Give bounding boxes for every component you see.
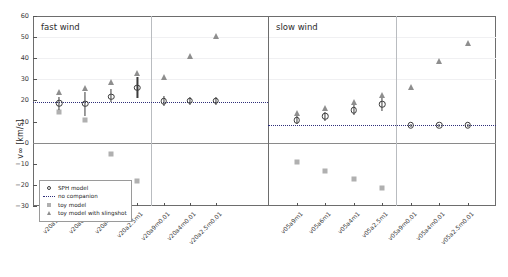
dotted-line-icon bbox=[43, 196, 55, 197]
toy-model-slingshot-marker bbox=[82, 85, 88, 91]
toy-model-marker bbox=[109, 151, 114, 156]
toy-model-slingshot-marker bbox=[108, 79, 114, 85]
y-tick-mark bbox=[33, 185, 37, 186]
toy-model-slingshot-marker bbox=[351, 99, 357, 105]
y-tick-label: 20 bbox=[21, 96, 29, 104]
y-tick-label: −20 bbox=[15, 181, 29, 189]
y-tick-mark bbox=[33, 58, 37, 59]
legend-label: no companion bbox=[58, 192, 98, 201]
sph-model-marker bbox=[108, 93, 115, 100]
toy-model-slingshot-marker bbox=[161, 74, 167, 80]
toy-model-slingshot-marker bbox=[436, 58, 442, 64]
sph-model-marker bbox=[213, 98, 220, 105]
y-tick-mark bbox=[33, 206, 37, 207]
y-tick-label: 60 bbox=[21, 12, 29, 20]
legend-item: SPH model bbox=[43, 184, 127, 193]
x-tick-mark bbox=[216, 203, 217, 207]
scan-band bbox=[33, 37, 496, 38]
x-tick-mark bbox=[190, 203, 191, 207]
legend-key-triangle bbox=[43, 211, 55, 215]
toy-model-marker bbox=[135, 179, 140, 184]
x-tick-mark bbox=[137, 203, 138, 207]
sph-model-marker bbox=[464, 122, 471, 129]
page-edge-artifact bbox=[2, 1, 4, 6]
toy-model-marker bbox=[351, 177, 356, 182]
y-tick-label: 0 bbox=[25, 139, 29, 147]
legend-item: toy model bbox=[43, 201, 127, 210]
sph-model-marker bbox=[293, 117, 300, 124]
panel-divider bbox=[268, 16, 269, 206]
toy-model-slingshot-marker bbox=[56, 89, 62, 95]
sph-model-marker bbox=[322, 113, 329, 120]
y-tick-label: −10 bbox=[15, 160, 29, 168]
sph-model-marker bbox=[82, 100, 89, 107]
legend-label: toy model bbox=[58, 201, 86, 210]
x-tick-mark bbox=[297, 203, 298, 207]
no-companion-line bbox=[268, 125, 496, 126]
legend-label: toy model with slingshot bbox=[58, 209, 127, 218]
toy-model-slingshot-marker bbox=[187, 53, 193, 59]
toy-model-slingshot-marker bbox=[322, 105, 328, 111]
zero-line bbox=[33, 143, 496, 144]
sph-model-marker bbox=[134, 85, 141, 92]
sph-model-marker bbox=[160, 98, 167, 105]
y-tick-label: −30 bbox=[15, 202, 29, 210]
y-tick-label: 10 bbox=[21, 118, 29, 126]
y-tick-mark bbox=[33, 122, 37, 123]
toy-model-marker bbox=[83, 118, 88, 123]
figure-root: v∞ [km/s] fast windslow wind −30−20−1001… bbox=[0, 0, 508, 277]
x-tick-mark bbox=[164, 203, 165, 207]
panel-title-slow-wind: slow wind bbox=[276, 22, 318, 32]
toy-model-marker bbox=[323, 168, 328, 173]
x-tick-mark bbox=[468, 203, 469, 207]
toy-model-marker bbox=[294, 159, 299, 164]
legend-item: toy model with slingshot bbox=[43, 209, 127, 218]
triangle-icon bbox=[47, 211, 51, 215]
scan-band bbox=[33, 79, 496, 80]
toy-model-slingshot-marker bbox=[213, 33, 219, 39]
plot-area: fast windslow wind bbox=[33, 16, 496, 206]
toy-model-slingshot-marker bbox=[408, 84, 414, 90]
sph-model-marker bbox=[350, 107, 357, 114]
circle-icon bbox=[47, 186, 51, 190]
toy-model-slingshot-marker bbox=[465, 40, 471, 46]
y-tick-mark bbox=[33, 16, 37, 17]
x-tick-mark bbox=[439, 203, 440, 207]
panel-title-fast-wind: fast wind bbox=[41, 22, 80, 32]
no-companion-line bbox=[33, 102, 268, 103]
sph-model-marker bbox=[56, 100, 63, 107]
sph-model-marker bbox=[186, 98, 193, 105]
x-tick-mark bbox=[325, 203, 326, 207]
square-icon bbox=[47, 203, 51, 207]
y-tick-mark bbox=[33, 79, 37, 80]
legend-key-square bbox=[43, 203, 55, 207]
toy-model-slingshot-marker bbox=[134, 70, 140, 76]
sph-model-marker bbox=[436, 122, 443, 129]
x-tick-mark bbox=[411, 203, 412, 207]
legend-label: SPH model bbox=[58, 184, 88, 193]
y-tick-mark bbox=[33, 164, 37, 165]
legend: SPH modelno companiontoy modeltoy model … bbox=[39, 180, 132, 222]
axes-frame bbox=[33, 16, 496, 206]
legend-item: no companion bbox=[43, 192, 127, 201]
mass-group-divider bbox=[396, 16, 397, 206]
mass-group-divider bbox=[151, 16, 152, 206]
y-tick-label: 40 bbox=[21, 54, 29, 62]
toy-model-marker bbox=[380, 185, 385, 190]
toy-model-slingshot-marker bbox=[294, 110, 300, 116]
x-tick-mark bbox=[354, 203, 355, 207]
legend-key-circle bbox=[43, 186, 55, 190]
y-tick-label: 50 bbox=[21, 33, 29, 41]
sph-model-marker bbox=[407, 122, 414, 129]
y-tick-mark bbox=[33, 37, 37, 38]
scan-band bbox=[33, 58, 496, 59]
x-tick-mark bbox=[382, 203, 383, 207]
y-tick-label: 30 bbox=[21, 75, 29, 83]
legend-key-dotted-line bbox=[43, 196, 55, 197]
sph-model-marker bbox=[379, 101, 386, 108]
